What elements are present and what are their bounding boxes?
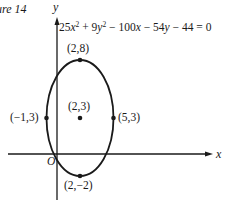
- point-center: [78, 116, 83, 121]
- label-center: (2,3): [68, 101, 90, 113]
- origin-label: O: [47, 156, 55, 168]
- ellipse-equation: 25x2 + 9y2 − 100x − 54y − 44 = 0: [59, 22, 211, 34]
- eq-term: 25: [59, 21, 71, 33]
- eq-term: − 54: [141, 21, 165, 33]
- y-axis-label: y: [53, 1, 58, 13]
- eq-term: + 9: [79, 21, 97, 33]
- x-axis-label: x: [216, 148, 221, 160]
- label-right-co-vertex: (5,3): [118, 112, 140, 124]
- point-bottom-vertex: [78, 174, 83, 179]
- eq-term: − 100: [106, 21, 136, 33]
- eq-term: − 44 = 0: [170, 21, 212, 33]
- label-bottom-vertex: (2,−2): [64, 180, 93, 192]
- point-right-co-vertex: [111, 116, 116, 121]
- figure-caption: ure 14: [0, 3, 27, 15]
- label-top-vertex: (2,8): [67, 43, 89, 55]
- point-left-co-vertex: [44, 116, 49, 121]
- point-top-vertex: [78, 58, 83, 63]
- x-axis-arrow-icon: [205, 152, 213, 157]
- ellipse-figure: ure 14 y x O 25x2 + 9y2 − 100x − 54y − 4…: [0, 0, 227, 200]
- label-left-co-vertex: (−1,3): [10, 112, 39, 124]
